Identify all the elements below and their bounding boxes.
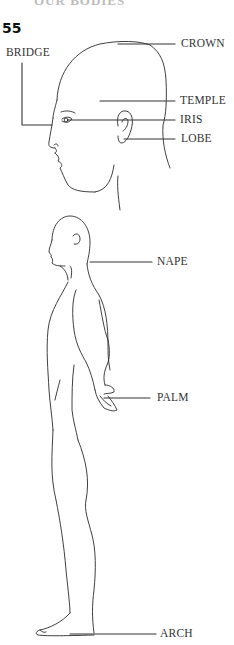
- body-side-drawing: [36, 216, 117, 636]
- label-iris: IRIS: [180, 113, 203, 125]
- label-bridge: BRIDGE: [6, 46, 50, 58]
- label-palm: PALM: [157, 391, 189, 403]
- label-temple: TEMPLE: [180, 94, 226, 106]
- label-lobe: LOBE: [181, 132, 212, 144]
- leader-lines: [22, 44, 175, 634]
- label-nape: NAPE: [157, 255, 188, 267]
- head-profile-drawing: [49, 41, 170, 210]
- label-arch: ARCH: [160, 627, 193, 639]
- label-crown: CROWN: [181, 37, 225, 49]
